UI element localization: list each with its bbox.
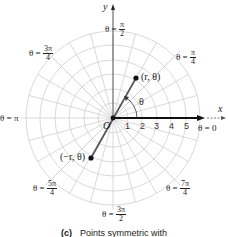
caption-label: (c) [61, 228, 72, 237]
x-axis-label: x [218, 104, 222, 114]
y-axis-label: y [103, 2, 107, 12]
y-axis-arrowhead [111, 4, 115, 10]
angle-label-3pi-over-4: θ = 3π4 [29, 45, 53, 62]
radial-tick-5: 5 [184, 121, 189, 131]
point-neg-r-theta [88, 155, 93, 160]
point-r-theta-label: (r, θ) [141, 72, 160, 82]
origin-label: O [103, 121, 110, 131]
angle-label-pi: θ = π [0, 114, 18, 123]
radial-tick-4: 4 [169, 121, 174, 131]
radial-tick-3: 3 [154, 121, 159, 131]
angle-label-7pi-over-4: θ = 7π4 [166, 180, 190, 197]
angle-label-pi-over-4: θ = π4 [176, 49, 196, 66]
radial-tick-2: 2 [140, 121, 145, 131]
angle-label-5pi-over-4: θ = 5π4 [33, 180, 57, 197]
angle-label-3pi-over-2: θ = 3π2 [102, 206, 126, 223]
theta-angle-label: θ [139, 97, 144, 107]
angle-label-pi-over-2: θ = π2 [105, 21, 125, 38]
angle-label-0: θ = 0 [198, 124, 216, 133]
origin-dot [111, 116, 116, 121]
x-axis-arrowhead [197, 115, 205, 121]
radial-tick-1: 1 [125, 121, 130, 131]
figure-caption: (c)Points symmetric with [0, 228, 228, 237]
point-r-theta [133, 75, 138, 80]
point-neg-r-theta-label: (−r, θ) [60, 152, 85, 162]
caption-text: Points symmetric with [80, 228, 167, 237]
